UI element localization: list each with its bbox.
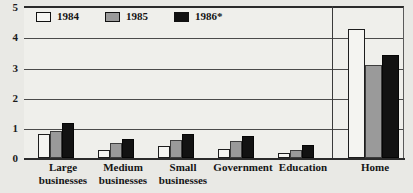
x-axis-label-medium-businesses: Medium businesses	[90, 161, 156, 187]
x-axis-label-small-businesses-line1: Small	[150, 161, 216, 174]
legend: 1984 1985 1986*	[36, 11, 223, 22]
legend-swatch-icon-1985	[105, 12, 120, 22]
x-axis-label-large-businesses: Large businesses	[30, 161, 96, 187]
bar-1984-medium-businesses[interactable]	[98, 150, 110, 158]
bar-1986-government[interactable]	[242, 136, 254, 158]
x-axis-label-home-line1: Home	[342, 161, 408, 174]
bar-1984-small-businesses[interactable]	[158, 146, 170, 158]
legend-label-1986: 1986*	[195, 11, 223, 22]
legend-swatch-icon-1984	[36, 12, 51, 22]
bar-group-medium-businesses	[98, 6, 148, 158]
legend-label-1984: 1984	[57, 11, 79, 22]
legend-label-1985: 1985	[126, 11, 148, 22]
bar-1985-home[interactable]	[365, 65, 382, 158]
x-axis-label-education: Education	[270, 161, 336, 174]
bar-1986-home[interactable]	[382, 55, 399, 158]
x-axis-label-large-businesses-line2: businesses	[30, 174, 96, 187]
bar-group-home	[348, 6, 402, 158]
bar-group-large-businesses	[38, 6, 88, 158]
y-tick-label-2: 2	[13, 93, 19, 104]
y-tick-label-5: 5	[13, 2, 19, 13]
y-tick-label-4: 4	[13, 32, 19, 43]
bar-1986-small-businesses[interactable]	[182, 134, 194, 158]
bar-group-education	[278, 6, 328, 158]
bar-1984-large-businesses[interactable]	[38, 134, 50, 158]
x-axis-label-small-businesses-line2: businesses	[150, 174, 216, 187]
bar-1986-large-businesses[interactable]	[62, 123, 74, 158]
bar-1985-medium-businesses[interactable]	[110, 143, 122, 158]
x-axis-label-government-line1: Government	[210, 161, 276, 174]
x-axis-label-medium-businesses-line1: Medium	[90, 161, 156, 174]
bars-layer	[24, 6, 404, 158]
bar-1985-government[interactable]	[230, 141, 242, 158]
bar-1986-medium-businesses[interactable]	[122, 139, 134, 158]
bar-1986-education[interactable]	[302, 145, 314, 158]
legend-item-1986[interactable]: 1986*	[174, 11, 223, 22]
bar-1985-large-businesses[interactable]	[50, 131, 62, 158]
bar-1984-government[interactable]	[218, 149, 230, 158]
legend-item-1985[interactable]: 1985	[105, 11, 148, 22]
legend-item-1984[interactable]: 1984	[36, 11, 79, 22]
bar-1984-home[interactable]	[348, 29, 365, 158]
bar-group-government	[218, 6, 268, 158]
x-axis-label-small-businesses: Small businesses	[150, 161, 216, 187]
x-axis-label-government: Government	[210, 161, 276, 174]
x-axis-label-home: Home	[342, 161, 408, 174]
y-tick-label-0: 0	[13, 153, 19, 164]
legend-swatch-icon-1986	[174, 12, 189, 22]
bar-1985-education[interactable]	[290, 150, 302, 158]
y-tick-label-1: 1	[13, 123, 19, 134]
x-axis-baseline	[24, 158, 405, 160]
bar-group-small-businesses	[158, 6, 208, 158]
x-axis: Large businesses Medium businesses Small…	[24, 161, 404, 193]
bar-chart: 5 4 3 2 1 0	[0, 0, 413, 193]
x-axis-label-large-businesses-line1: Large	[30, 161, 96, 174]
y-tick-label-3: 3	[13, 63, 19, 74]
y-axis: 5 4 3 2 1 0	[0, 0, 22, 193]
x-axis-label-education-line1: Education	[270, 161, 336, 174]
x-axis-label-medium-businesses-line2: businesses	[90, 174, 156, 187]
bar-1985-small-businesses[interactable]	[170, 140, 182, 158]
